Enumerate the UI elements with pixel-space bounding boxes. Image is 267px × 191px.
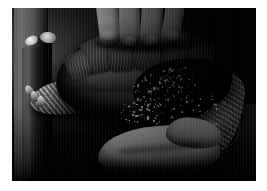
photo-vignette xyxy=(12,8,256,181)
page-root xyxy=(0,0,267,191)
photograph xyxy=(12,8,256,181)
